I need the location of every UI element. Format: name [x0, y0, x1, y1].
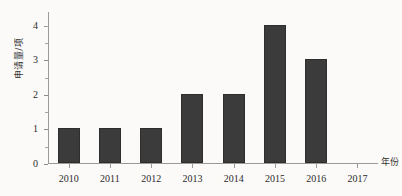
y-tick-label-2: 2 [33, 90, 38, 100]
y-axis-label: 申请量/项 [12, 23, 25, 95]
x-tick-label-2011: 2011 [100, 173, 120, 184]
bar-2011 [99, 128, 121, 163]
y-minor-tick [45, 26, 48, 27]
x-tick-label-2012: 2012 [141, 173, 161, 184]
plot-area: 01234 20102011201220132014201520162017 [48, 12, 378, 164]
bar-2010 [58, 128, 80, 163]
y-axis-line [48, 12, 49, 164]
x-tick-2012 [151, 164, 152, 168]
y-tick-label-0: 0 [33, 159, 38, 169]
x-tick-2010 [69, 164, 70, 168]
y-minor-tick [45, 112, 48, 113]
y-tick-label-4: 4 [33, 21, 38, 31]
bar-2013 [181, 94, 203, 163]
x-tick-label-2010: 2010 [59, 173, 79, 184]
y-minor-tick [45, 78, 48, 79]
y-tick-label-1: 1 [33, 124, 38, 134]
x-tick-2017 [357, 164, 358, 168]
bar-chart: 申请量/项 01234 2010201120122013201420152016… [0, 0, 402, 196]
y-minor-tick [45, 147, 48, 148]
x-tick-2015 [275, 164, 276, 168]
x-axis-label: 年份 [381, 155, 399, 168]
x-tick-label-2016: 2016 [306, 173, 326, 184]
x-tick-2016 [316, 164, 317, 168]
y-tick-1: 1 [44, 129, 48, 130]
x-tick-2011 [110, 164, 111, 168]
y-tick-2: 2 [44, 95, 48, 96]
x-tick-label-2017: 2017 [347, 173, 367, 184]
bar-2016 [305, 59, 327, 163]
x-tick-label-2013: 2013 [182, 173, 202, 184]
y-minor-tick [45, 43, 48, 44]
bar-2015 [264, 25, 286, 163]
y-tick-3: 3 [44, 60, 48, 61]
x-axis-line [48, 163, 378, 164]
x-tick-label-2014: 2014 [224, 173, 244, 184]
x-tick-2014 [234, 164, 235, 168]
y-tick-label-3: 3 [33, 55, 38, 65]
y-tick-0: 0 [44, 164, 48, 165]
bar-2012 [140, 128, 162, 163]
bar-2014 [223, 94, 245, 163]
x-tick-label-2015: 2015 [265, 173, 285, 184]
x-tick-2013 [192, 164, 193, 168]
